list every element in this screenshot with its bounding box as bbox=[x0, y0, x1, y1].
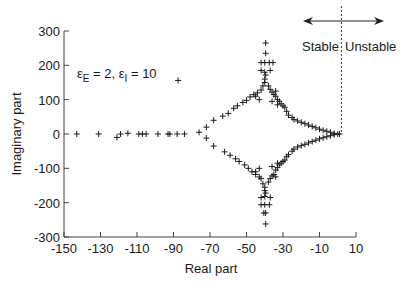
eps-e-value: = 2, bbox=[89, 66, 118, 81]
y-tick-label: -100 bbox=[34, 161, 60, 176]
data-point-plus-icon bbox=[220, 113, 226, 119]
data-point-plus-icon bbox=[263, 72, 269, 78]
stable-label: Stable bbox=[302, 39, 339, 54]
data-point-plus-icon bbox=[233, 156, 239, 162]
x-tick-label: -110 bbox=[124, 241, 149, 256]
data-point-plus-icon bbox=[242, 162, 248, 168]
x-tick-label: -10 bbox=[310, 241, 329, 256]
data-point-plus-icon bbox=[114, 134, 120, 140]
data-point-plus-icon bbox=[203, 135, 209, 141]
unstable-label: Unstable bbox=[345, 39, 396, 54]
data-point-plus-icon bbox=[263, 50, 269, 56]
y-tick-label: 0 bbox=[53, 127, 60, 142]
x-tick-label: -70 bbox=[201, 241, 220, 256]
data-point-plus-icon bbox=[222, 149, 228, 155]
parameter-annotation: εE = 2, εI = 10 bbox=[77, 66, 157, 84]
data-point-plus-icon bbox=[298, 143, 304, 149]
data-point-plus-icon bbox=[267, 195, 273, 201]
data-point-plus-icon bbox=[309, 123, 315, 129]
data-point-plus-icon bbox=[309, 139, 315, 145]
y-tick-label: -300 bbox=[34, 230, 60, 245]
data-point-plus-icon bbox=[236, 158, 242, 164]
stability-arrow bbox=[303, 17, 384, 25]
y-tick-label: 200 bbox=[38, 58, 60, 73]
data-point-plus-icon bbox=[256, 165, 262, 171]
x-ticks: -150-130-110-90-70-50-30-1010 bbox=[51, 232, 363, 256]
data-point-plus-icon bbox=[174, 131, 180, 137]
data-point-plus-icon bbox=[295, 118, 301, 124]
x-tick-label: -130 bbox=[87, 241, 113, 256]
data-point-plus-icon bbox=[313, 137, 319, 143]
data-point-plus-icon bbox=[256, 97, 262, 103]
data-point-plus-icon bbox=[306, 140, 312, 146]
x-axis-label: Real part bbox=[185, 261, 238, 276]
y-axis-label: Imaginary part bbox=[9, 92, 24, 175]
data-point-plus-icon bbox=[263, 40, 269, 46]
data-point-plus-icon bbox=[262, 193, 268, 199]
x-tick-label: -90 bbox=[164, 241, 183, 256]
y-tick-label: 100 bbox=[38, 93, 60, 108]
data-point-plus-icon bbox=[175, 77, 181, 83]
data-point-plus-icon bbox=[155, 131, 161, 137]
data-point-plus-icon bbox=[211, 143, 217, 149]
data-point-plus-icon bbox=[317, 126, 323, 132]
root-locus-chart: -150-130-110-90-70-50-30-1010 3002001000… bbox=[0, 0, 408, 288]
data-point-plus-icon bbox=[125, 130, 131, 136]
data-point-plus-icon bbox=[266, 202, 272, 208]
data-point-plus-icon bbox=[262, 76, 268, 82]
x-tick-label: -50 bbox=[237, 241, 256, 256]
data-point-plus-icon bbox=[211, 117, 217, 123]
data-point-plus-icon bbox=[320, 135, 326, 141]
data-point-plus-icon bbox=[269, 98, 275, 104]
data-point-plus-icon bbox=[320, 127, 326, 133]
data-point-plus-icon bbox=[302, 121, 308, 127]
eps-i-value: = 10 bbox=[127, 66, 156, 81]
y-tick-label: -200 bbox=[34, 196, 60, 211]
axes bbox=[64, 31, 356, 237]
data-point-plus-icon bbox=[181, 131, 187, 137]
data-point-plus-icon bbox=[267, 67, 273, 73]
data-point-plus-icon bbox=[118, 131, 124, 137]
data-point-plus-icon bbox=[317, 136, 323, 142]
data-point-plus-icon bbox=[225, 110, 231, 116]
y-tick-label: 300 bbox=[38, 24, 60, 39]
x-tick-label: 10 bbox=[349, 241, 363, 256]
data-point-plus-icon bbox=[306, 122, 312, 128]
data-point-plus-icon bbox=[298, 119, 304, 125]
data-point-plus-icon bbox=[227, 152, 233, 158]
data-point-plus-icon bbox=[196, 129, 202, 135]
data-point-plus-icon bbox=[324, 134, 330, 140]
data-point-plus-icon bbox=[270, 60, 276, 66]
x-tick-label: -30 bbox=[274, 241, 293, 256]
data-point-plus-icon bbox=[74, 131, 80, 137]
data-point-plus-icon bbox=[203, 124, 209, 130]
data-point-plus-icon bbox=[143, 131, 149, 137]
data-point-plus-icon bbox=[253, 169, 259, 175]
data-point-plus-icon bbox=[324, 128, 330, 134]
data-point-plus-icon bbox=[96, 131, 102, 137]
data-point-plus-icon bbox=[302, 141, 308, 147]
data-point-plus-icon bbox=[258, 195, 264, 201]
data-point-plus-icon bbox=[263, 221, 269, 227]
data-point-plus-icon bbox=[269, 164, 275, 170]
data-point-plus-icon bbox=[245, 165, 251, 171]
data-point-plus-icon bbox=[313, 125, 319, 131]
